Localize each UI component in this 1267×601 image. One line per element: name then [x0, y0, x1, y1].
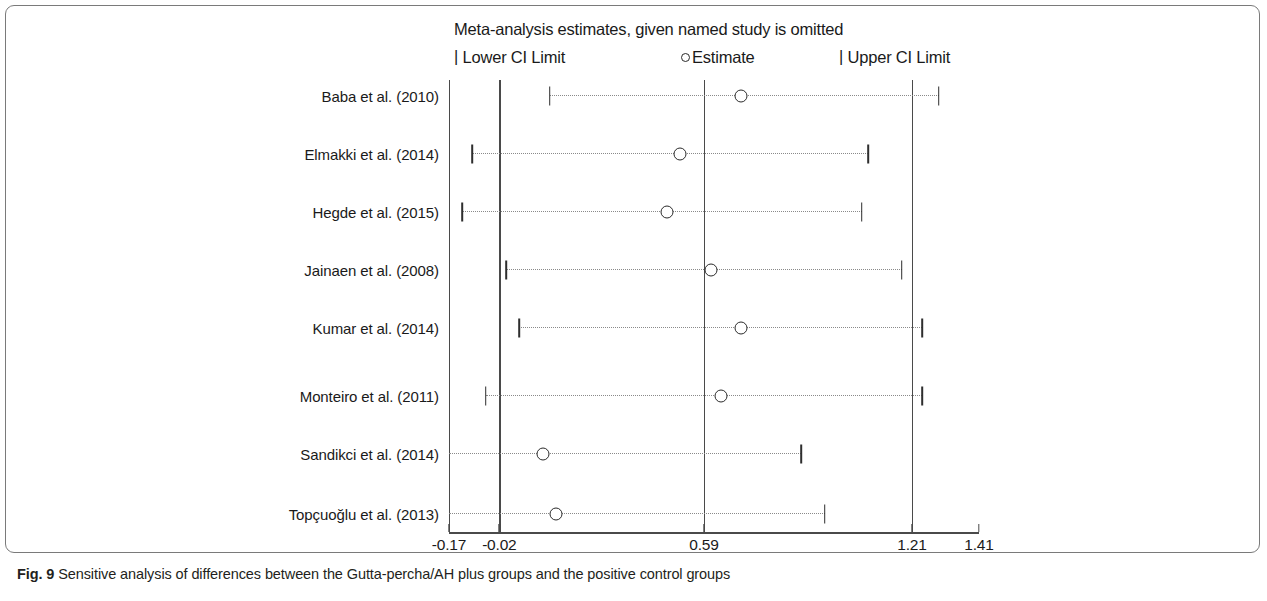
- study-label-1: Elmakki et al. (2014): [304, 146, 439, 163]
- figure-frame: Meta-analysis estimates, given named stu…: [5, 5, 1260, 553]
- lower-ci-tick-icon: |: [454, 47, 458, 66]
- estimate-marker-3: [704, 264, 717, 277]
- x-tick-4: [978, 524, 979, 532]
- legend-label-lower-ci: Lower CI Limit: [462, 48, 565, 66]
- x-tick-label-4: 1.41: [964, 536, 993, 553]
- legend-item-upper-ci: | Upper CI Limit: [839, 48, 950, 67]
- upper-ci-tick-1: [868, 145, 870, 164]
- reference-line-1: [499, 80, 500, 532]
- reference-line-0: [449, 80, 450, 532]
- estimate-marker-2: [661, 206, 674, 219]
- x-axis-line: [449, 532, 979, 534]
- ci-line-6: [449, 453, 801, 455]
- x-tick-label-2: 0.59: [689, 536, 718, 553]
- legend-item-lower-ci: | Lower CI Limit: [454, 48, 565, 67]
- study-label-5: Monteiro et al. (2011): [300, 388, 439, 405]
- upper-ci-tick-3: [901, 261, 903, 280]
- estimate-marker-4: [734, 322, 747, 335]
- legend-label-upper-ci: Upper CI Limit: [847, 48, 950, 66]
- lower-ci-tick-4: [519, 319, 521, 338]
- x-tick-3: [911, 524, 912, 532]
- upper-ci-tick-icon: |: [839, 47, 843, 66]
- figure-caption-label: Fig. 9: [17, 566, 54, 582]
- lower-ci-tick-3: [505, 261, 507, 280]
- ci-line-1: [472, 153, 868, 155]
- lower-ci-tick-2: [462, 203, 464, 222]
- study-label-0: Baba et al. (2010): [322, 88, 439, 105]
- lower-ci-tick-1: [472, 145, 474, 164]
- estimate-marker-7: [550, 508, 563, 521]
- estimate-marker-6: [536, 448, 549, 461]
- lower-ci-tick-0: [549, 87, 551, 106]
- study-label-2: Hegde et al. (2015): [312, 204, 439, 221]
- x-tick-label-3: 1.21: [897, 536, 926, 553]
- x-tick-label-1: -0.02: [482, 536, 516, 553]
- legend-item-estimate: Estimate: [681, 48, 755, 67]
- figure-caption-text: Sensitive analysis of differences betwee…: [58, 566, 730, 582]
- x-tick-0: [448, 524, 449, 532]
- ci-line-5: [486, 395, 922, 397]
- estimate-circle-icon: [681, 53, 690, 62]
- estimate-marker-0: [734, 90, 747, 103]
- x-tick-label-0: -0.17: [432, 536, 466, 553]
- upper-ci-tick-4: [921, 319, 923, 338]
- upper-ci-tick-2: [861, 203, 863, 222]
- x-tick-1: [499, 524, 500, 532]
- ci-line-7: [449, 513, 825, 515]
- legend-label-estimate: Estimate: [692, 48, 755, 66]
- study-label-4: Kumar et al. (2014): [313, 320, 440, 337]
- study-label-3: Jainaen et al. (2008): [304, 262, 439, 279]
- study-label-6: Sandikci et al. (2014): [300, 446, 439, 463]
- study-label-7: Topçuoğlu et al. (2013): [289, 506, 439, 523]
- upper-ci-tick-5: [921, 387, 923, 406]
- reference-line-2: [704, 80, 705, 532]
- estimate-marker-1: [674, 148, 687, 161]
- estimate-marker-5: [714, 390, 727, 403]
- upper-ci-tick-6: [800, 445, 802, 464]
- plot-legend: | Lower CI Limit Estimate | Upper CI Lim…: [454, 48, 994, 70]
- plot-area: Meta-analysis estimates, given named stu…: [6, 6, 1260, 553]
- upper-ci-tick-7: [824, 505, 826, 524]
- plot-title: Meta-analysis estimates, given named stu…: [454, 20, 843, 39]
- ci-line-4: [519, 327, 922, 329]
- figure-caption: Fig. 9 Sensitive analysis of differences…: [17, 566, 1247, 582]
- upper-ci-tick-0: [938, 87, 940, 106]
- reference-line-3: [912, 80, 913, 532]
- lower-ci-tick-5: [485, 387, 487, 406]
- x-tick-2: [703, 524, 704, 532]
